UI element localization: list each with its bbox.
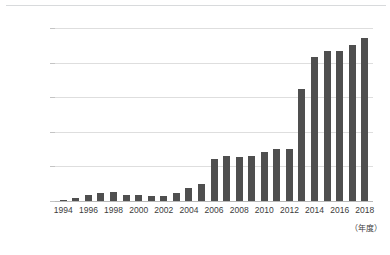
bar-slot <box>359 28 372 201</box>
bar-slot <box>120 28 133 201</box>
bar-2008 <box>236 157 243 201</box>
bar-slot <box>308 28 321 201</box>
bar-2009 <box>248 156 255 201</box>
bar-slot <box>107 28 120 201</box>
plot-area: 02兆日圓4兆日圓6兆日圓8兆日圓10兆日圓 <box>55 28 373 202</box>
bar-slot <box>57 28 70 201</box>
bar-chart-figure: 02兆日圓4兆日圓6兆日圓8兆日圓10兆日圓 19941996199820002… <box>0 0 390 255</box>
x-tick-slot: 1998 <box>107 206 120 220</box>
x-tick-slot: 2016 <box>333 206 346 220</box>
bar-2018 <box>361 38 368 201</box>
bar-slot <box>283 28 296 201</box>
bar-2004 <box>185 188 192 201</box>
x-tick-slot: 2014 <box>308 206 321 220</box>
bar-2013 <box>298 89 305 201</box>
bar-slot <box>195 28 208 201</box>
bar-slot <box>208 28 221 201</box>
x-tick-slot: 2008 <box>233 206 246 220</box>
bar-slot <box>82 28 95 201</box>
bar-slot <box>183 28 196 201</box>
bar-2003 <box>173 193 180 201</box>
bar-slot <box>158 28 171 201</box>
x-tick-slot: 2006 <box>208 206 221 220</box>
bar-2000 <box>135 195 142 201</box>
bar-2001 <box>148 196 155 201</box>
x-axis-unit-label: （年度） <box>350 222 382 233</box>
bar-slot <box>245 28 258 201</box>
x-tick-slot: 2010 <box>258 206 271 220</box>
x-tick-slot: 2012 <box>283 206 296 220</box>
bar-1994 <box>60 200 67 201</box>
bar-2007 <box>223 156 230 201</box>
bar-slot <box>95 28 108 201</box>
bar-slot <box>321 28 334 201</box>
top-divider-rule <box>6 5 386 6</box>
x-axis-baseline <box>55 201 373 202</box>
bar-1996 <box>85 195 92 201</box>
bar-1997 <box>97 193 104 201</box>
x-axis-tick-label: 2018 <box>355 206 374 215</box>
x-tick-slot: 2004 <box>183 206 196 220</box>
bar-slot <box>170 28 183 201</box>
bar-slot <box>220 28 233 201</box>
bar-slot <box>70 28 83 201</box>
bar-2016 <box>336 51 343 202</box>
bar-slot <box>346 28 359 201</box>
bar-slot <box>145 28 158 201</box>
bar-slot <box>296 28 309 201</box>
bar-2011 <box>273 149 280 201</box>
bar-1998 <box>110 192 117 201</box>
bar-2005 <box>198 184 205 201</box>
bar-2017 <box>349 45 356 201</box>
bar-2010 <box>261 152 268 201</box>
x-tick-slot: 1996 <box>82 206 95 220</box>
x-tick-slot: 2002 <box>158 206 171 220</box>
x-tick-slot: 2018 <box>359 206 372 220</box>
bar-2006 <box>211 159 218 201</box>
bar-series <box>55 28 373 201</box>
bar-slot <box>333 28 346 201</box>
bar-2014 <box>311 57 318 201</box>
x-tick-slot: 2000 <box>132 206 145 220</box>
bar-2002 <box>160 196 167 201</box>
bar-slot <box>271 28 284 201</box>
bar-1995 <box>72 198 79 201</box>
bar-2015 <box>324 51 331 202</box>
bar-slot <box>258 28 271 201</box>
bar-slot <box>132 28 145 201</box>
x-tick-slot: 1994 <box>57 206 70 220</box>
bar-slot <box>233 28 246 201</box>
bar-2012 <box>286 149 293 201</box>
x-axis-tick-labels: 1994199619982000200220042006200820102012… <box>55 206 373 220</box>
bar-1999 <box>123 195 130 201</box>
